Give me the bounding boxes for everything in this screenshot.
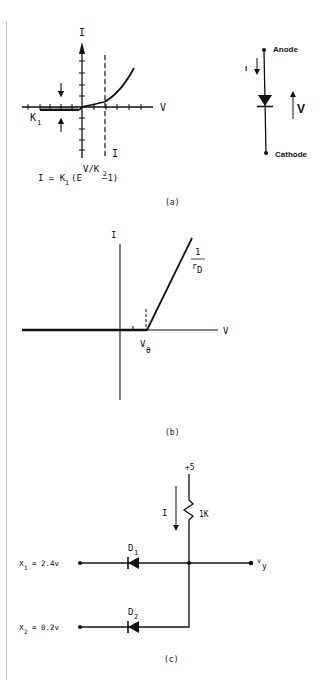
a-formula-suffix: –1) <box>102 173 118 183</box>
input2-sub: 2 <box>24 628 28 635</box>
voltage-label: V <box>297 102 305 116</box>
figure-a-diode-symbol: Anode Cathode I V <box>245 45 308 159</box>
b-threshold-sub: θ <box>146 346 151 355</box>
b-x-axis-label: V <box>223 326 229 336</box>
caption-b: (b) <box>165 428 179 437</box>
a-formula-paren: (E <box>71 173 82 183</box>
diode-triangle-icon <box>258 95 272 106</box>
diode1-label: D <box>128 543 133 553</box>
anode-terminal <box>262 48 266 52</box>
a-k1-label: K <box>30 112 36 123</box>
a-x-axis-label: V <box>160 102 166 113</box>
cathode-label: Cathode <box>275 150 308 159</box>
a-y-axis-label: I <box>79 27 85 38</box>
a-formula-k1-sub: 1 <box>65 179 69 187</box>
diode-d1-icon <box>128 557 139 569</box>
c-current-label: I <box>162 508 167 518</box>
diagram-canvas: I V K 1 I I = K 1 (E V/K 2 –1) Anode Cat… <box>0 0 325 680</box>
b-slope-numerator: 1 <box>195 247 200 257</box>
output-var: v <box>257 557 261 565</box>
diode2-sub: 2 <box>134 613 138 621</box>
input1-sub: 1 <box>24 564 28 571</box>
a-k1-sub: 1 <box>37 119 41 127</box>
caption-a: (a) <box>165 198 179 207</box>
figure-a-graph: I V K 1 I I = K 1 (E V/K 2 –1) <box>22 27 166 187</box>
a-iv-curve <box>40 68 134 110</box>
diode1-sub: 1 <box>134 549 138 557</box>
output-sub: y <box>262 562 267 571</box>
a-formula-exp: V/K <box>83 164 100 174</box>
figure-b-graph: I V V θ 1 r D <box>22 230 229 400</box>
b-on-segment <box>147 238 192 330</box>
supply-label: +5 <box>185 463 195 472</box>
input2-terminal <box>78 625 82 629</box>
diode2-label: D <box>128 607 133 617</box>
figure-c-circuit: +5 1K I D 1 D 2 x 1 = 2.4v x 2 = 0.2v v … <box>19 463 267 635</box>
a-formula-prefix: I = K <box>38 173 66 183</box>
cathode-terminal <box>264 151 268 155</box>
current-label: I <box>245 64 247 73</box>
diode-figure-page: I V K 1 I I = K 1 (E V/K 2 –1) Anode Cat… <box>0 0 325 680</box>
junction-dot <box>187 561 191 565</box>
diode-d2-icon <box>128 621 139 633</box>
b-y-axis-label: I <box>111 230 116 240</box>
input1-value: = 2.4v <box>32 559 60 568</box>
caption-c: (c) <box>164 655 178 664</box>
a-y-axis-arrow-icon <box>79 42 85 54</box>
b-slope-denominator-sub: D <box>197 265 202 275</box>
input2-value: = 0.2v <box>32 623 60 632</box>
a-dashed-label: I <box>112 148 118 159</box>
output-terminal <box>249 561 253 565</box>
resistor-label: 1K <box>199 510 209 519</box>
anode-label: Anode <box>273 45 298 54</box>
input1-terminal <box>78 561 82 565</box>
